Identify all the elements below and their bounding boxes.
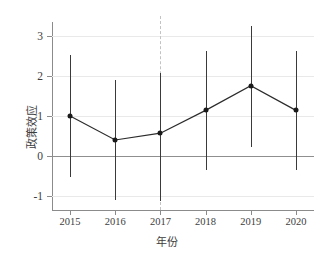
data-point-2020 xyxy=(293,108,298,113)
data-point-2015 xyxy=(68,114,73,119)
y-tick-label--1: -1 xyxy=(13,190,43,202)
data-point-2019 xyxy=(248,83,253,88)
x-tick-label-2015: 2015 xyxy=(60,216,81,227)
y-tick-label-2: 2 xyxy=(13,70,43,82)
data-point-2017 xyxy=(158,131,163,136)
plot-area xyxy=(52,22,314,210)
x-tick-mark-2020 xyxy=(296,211,297,215)
y-tick-label-0: 0 xyxy=(13,150,43,162)
x-tick-mark-2019 xyxy=(251,211,252,215)
x-tick-label-2017: 2017 xyxy=(150,216,171,227)
x-tick-mark-2016 xyxy=(115,211,116,215)
y-tick-label-1: 1 xyxy=(13,110,43,122)
x-tick-label-2016: 2016 xyxy=(105,216,126,227)
x-axis-line xyxy=(52,210,314,211)
x-tick-mark-2017 xyxy=(160,211,161,215)
data-point-2016 xyxy=(113,138,118,143)
x-tick-label-2018: 2018 xyxy=(195,216,216,227)
x-tick-mark-2018 xyxy=(206,211,207,215)
y-tick-label-3: 3 xyxy=(13,30,43,42)
trend-line xyxy=(52,22,314,210)
x-tick-label-2020: 2020 xyxy=(285,216,306,227)
data-point-2018 xyxy=(203,108,208,113)
event-study-chart: 政策效应 -10123 201520162017201820192020 年份 xyxy=(0,0,333,254)
x-tick-mark-2015 xyxy=(70,211,71,215)
x-tick-label-2019: 2019 xyxy=(240,216,261,227)
x-axis-title: 年份 xyxy=(0,233,333,249)
